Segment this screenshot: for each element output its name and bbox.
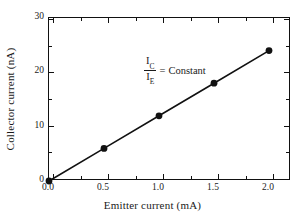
numerator-symbol: I — [146, 55, 150, 66]
denominator-subscript: E — [150, 77, 155, 86]
x-tick-label-4: 2.0 — [262, 183, 274, 193]
annotation-text: Constant — [168, 65, 205, 76]
numerator-subscript: C — [150, 62, 155, 71]
data-point — [211, 80, 218, 87]
data-point — [156, 112, 163, 119]
y-axis-title-text: Collector current (nA) — [4, 47, 16, 150]
equals-sign: = — [160, 65, 166, 76]
data-series-layer — [49, 18, 291, 181]
x-tick-label-1: 0.5 — [97, 183, 109, 193]
fraction-numerator: IC — [144, 56, 157, 70]
data-point — [101, 145, 108, 152]
chart-figure: Collector current (nA) 0 10 20 30 — [0, 0, 305, 222]
fraction-denominator: IE — [144, 70, 156, 85]
x-tick-label-0: 0.0 — [42, 183, 54, 193]
x-tick-label-2: 1.0 — [152, 183, 164, 193]
fraction-ic-ie: IC IE — [144, 56, 157, 84]
x-axis-title: Emitter current (mA) — [0, 199, 305, 211]
plot-area: IC IE = Constant — [48, 17, 290, 180]
data-point — [266, 47, 273, 54]
y-axis-title: Collector current (nA) — [2, 0, 18, 197]
annotation-ratio-constant: IC IE = Constant — [144, 56, 206, 84]
x-tick-label-3: 1.5 — [207, 183, 219, 193]
